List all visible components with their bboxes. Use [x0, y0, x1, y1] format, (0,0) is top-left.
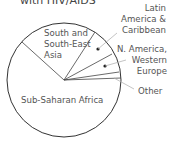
label-latam-2: America &: [121, 14, 166, 24]
label-asia-3: Asia: [44, 50, 62, 60]
label-asia-2: South-East: [44, 39, 91, 49]
pie-chart: with HIV/AIDS Sub-Saharan Africa South a…: [0, 0, 174, 147]
label-latam-3: Caribbean: [122, 25, 166, 35]
label-other: Other: [138, 86, 163, 96]
label-namer-2: Western: [132, 55, 167, 65]
label-namer-1: N. America,: [117, 44, 167, 54]
label-latam-1: Latin: [145, 3, 166, 13]
chart-title: with HIV/AIDS: [20, 0, 96, 7]
label-sub-saharan-africa: Sub-Saharan Africa: [21, 95, 103, 105]
label-namer-3: Europe: [137, 66, 167, 76]
label-asia-1: South and: [44, 28, 88, 38]
